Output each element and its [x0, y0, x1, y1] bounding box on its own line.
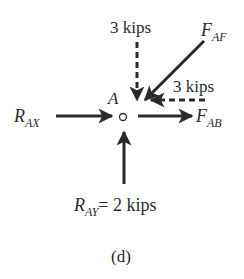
- joint-a: [120, 114, 127, 121]
- horizontal-load-label: 3 kips: [173, 77, 214, 96]
- f-af-label: FAF: [200, 20, 227, 44]
- f-ab-label: FAB: [195, 106, 222, 130]
- free-body-diagram: 3 kips FAF 3 kips A RAX FAB RAY= 2 kips …: [0, 0, 244, 279]
- joint-label: A: [107, 89, 119, 108]
- r-ay-label: RAY= 2 kips: [73, 195, 157, 219]
- vertical-load-label: 3 kips: [110, 18, 151, 37]
- figure-caption: (d): [111, 247, 131, 266]
- r-ax-label: RAX: [13, 106, 40, 130]
